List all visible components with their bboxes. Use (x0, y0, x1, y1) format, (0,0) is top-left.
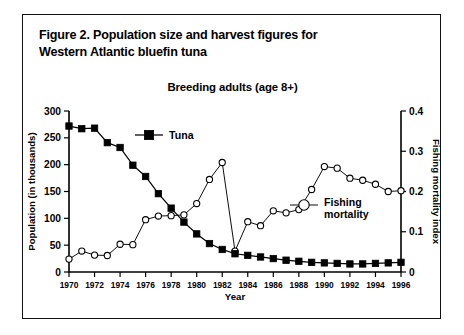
x-axis-tick-label: 1982 (213, 280, 232, 290)
data-point-fishing-mortality (283, 210, 289, 216)
x-axis-tick-label: 1972 (85, 280, 104, 290)
data-point-tuna (321, 260, 327, 266)
x-axis-tick-label: 1988 (290, 280, 309, 290)
y2-axis-tick-label: 0.3 (409, 146, 423, 157)
data-point-fishing-mortality (143, 217, 149, 223)
data-point-fishing-mortality (91, 252, 97, 258)
data-point-fishing-mortality (219, 159, 225, 165)
data-point-tuna (117, 144, 123, 150)
y2-axis-tick-label: 0 (409, 267, 415, 278)
data-point-tuna (181, 219, 187, 225)
y2-axis-title: Fishing mortality index (431, 139, 442, 245)
x-axis-tick-label: 1996 (392, 280, 411, 290)
data-point-tuna (219, 246, 225, 252)
data-point-fishing-mortality (257, 223, 263, 229)
y-axis-tick-label: 50 (50, 240, 62, 251)
data-point-tuna (296, 258, 302, 264)
data-point-tuna (104, 139, 110, 145)
legend-marker-tuna (144, 130, 153, 139)
data-point-fishing-mortality (347, 175, 353, 181)
data-point-tuna (334, 260, 340, 266)
data-point-fishing-mortality (385, 188, 391, 194)
legend-marker-fishing-mortality (299, 200, 309, 210)
data-point-fishing-mortality (66, 256, 72, 262)
y-axis-title: Population (in thousands) (26, 132, 37, 250)
data-point-fishing-mortality (309, 186, 315, 192)
x-axis-tick-label: 1992 (341, 280, 360, 290)
line-chart: 05010015020025030000.10.20.30.4197019721… (23, 15, 442, 320)
data-point-fishing-mortality (79, 248, 85, 254)
data-point-tuna (142, 173, 148, 179)
y-axis-tick-label: 0 (55, 267, 61, 278)
data-point-tuna (91, 125, 97, 131)
x-axis-tick-label: 1978 (162, 280, 181, 290)
data-point-fishing-mortality (245, 219, 251, 225)
chart-plot-area: 05010015020025030000.10.20.30.4197019721… (23, 15, 442, 320)
legend-label-fishing-mortality-line2: mortality (324, 208, 369, 220)
x-axis-tick-label: 1984 (238, 280, 257, 290)
data-point-fishing-mortality (155, 213, 161, 219)
data-point-tuna (283, 257, 289, 263)
data-point-tuna (66, 123, 72, 129)
data-point-tuna (308, 259, 314, 265)
y-axis-tick-label: 150 (44, 186, 61, 197)
x-axis-tick-label: 1990 (315, 280, 334, 290)
data-point-tuna (385, 260, 391, 266)
data-point-fishing-mortality (194, 200, 200, 206)
x-axis-tick-label: 1974 (111, 280, 130, 290)
data-point-tuna (130, 162, 136, 168)
x-axis-tick-label: 1970 (60, 280, 79, 290)
data-point-tuna (232, 251, 238, 257)
data-point-tuna (257, 254, 263, 260)
data-point-fishing-mortality (168, 213, 174, 219)
data-point-fishing-mortality (398, 188, 404, 194)
y2-axis-tick-label: 0.1 (409, 226, 423, 237)
legend-label-tuna: Tuna (169, 129, 194, 141)
x-axis-tick-label: 1994 (366, 280, 385, 290)
data-point-fishing-mortality (360, 177, 366, 183)
data-point-fishing-mortality (321, 163, 327, 169)
x-axis-title: Year (225, 291, 246, 302)
x-axis-tick-label: 1980 (187, 280, 206, 290)
data-point-tuna (193, 231, 199, 237)
data-point-tuna (270, 255, 276, 261)
data-point-tuna (372, 260, 378, 266)
data-point-tuna (245, 252, 251, 258)
data-point-tuna (155, 190, 161, 196)
data-point-fishing-mortality (206, 176, 212, 182)
data-point-tuna (206, 240, 212, 246)
data-point-tuna (79, 126, 85, 132)
x-axis-tick-label: 1976 (136, 280, 155, 290)
figure-frame: Figure 2. Population size and harvest fi… (22, 14, 441, 319)
y2-axis-tick-label: 0.4 (409, 106, 423, 117)
y-axis-tick-label: 200 (44, 159, 61, 170)
data-point-fishing-mortality (117, 241, 123, 247)
y-axis-tick-label: 100 (44, 213, 61, 224)
data-point-tuna (398, 259, 404, 265)
data-point-fishing-mortality (130, 242, 136, 248)
y2-axis-tick-label: 0.2 (409, 186, 423, 197)
data-point-fishing-mortality (270, 208, 276, 214)
legend-label-fishing-mortality-line1: Fishing (324, 196, 362, 208)
y-axis-tick-label: 300 (44, 106, 61, 117)
data-point-tuna (168, 205, 174, 211)
data-point-fishing-mortality (104, 252, 110, 258)
data-point-fishing-mortality (372, 181, 378, 187)
x-axis-tick-label: 1986 (264, 280, 283, 290)
y-axis-tick-label: 250 (44, 132, 61, 143)
data-point-tuna (347, 261, 353, 267)
data-point-tuna (359, 261, 365, 267)
data-point-fishing-mortality (181, 212, 187, 218)
data-point-fishing-mortality (334, 165, 340, 171)
